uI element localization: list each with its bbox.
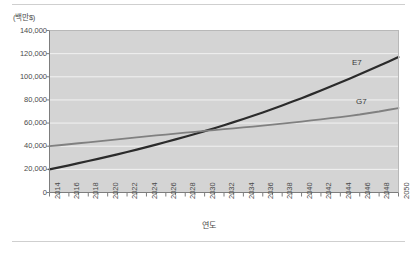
series-label-g7: G7 (356, 97, 367, 106)
x-axis-title: 연도 (0, 219, 417, 230)
x-tick-label: 2032 (227, 182, 236, 199)
x-tick-label: 2014 (53, 182, 62, 199)
x-tick-label: 2050 (402, 182, 411, 199)
x-tick-label: 2030 (208, 182, 217, 199)
x-tick-label: 2028 (188, 182, 197, 199)
x-tick-label: 2042 (324, 182, 333, 199)
x-tick-label: 2034 (247, 182, 256, 199)
x-tick-label: 2016 (72, 182, 81, 199)
x-tick-label: 2046 (363, 182, 372, 199)
x-tick-label: 2048 (382, 182, 391, 199)
x-tick-label: 2038 (285, 182, 294, 199)
x-axis-tick-labels: 2014201620182020202220242026202820302032… (0, 0, 417, 253)
x-tick-label: 2026 (169, 182, 178, 199)
x-tick-label: 2040 (305, 182, 314, 199)
chart-figure: (백만$) 020,00040,00060,00080,000100,00012… (0, 0, 417, 253)
series-label-e7: E7 (352, 58, 362, 67)
x-tick-label: 2018 (91, 182, 100, 199)
x-tick-label: 2020 (111, 182, 120, 199)
x-tick-label: 2044 (344, 182, 353, 199)
x-tick-label: 2024 (150, 182, 159, 199)
x-tick-label: 2022 (130, 182, 139, 199)
x-tick-label: 2036 (266, 182, 275, 199)
